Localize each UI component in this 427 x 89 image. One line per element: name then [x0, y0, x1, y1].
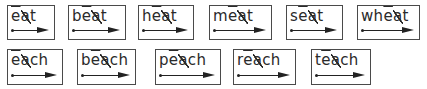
word-card-beach: beach	[77, 49, 136, 85]
word-card-wheat: wheat	[357, 5, 420, 40]
long-vowel: e	[243, 51, 253, 69]
reading-arrow-icon	[11, 27, 49, 34]
reading-arrow-icon	[361, 27, 414, 34]
silent-letter: a	[178, 50, 188, 70]
long-vowel: e	[298, 7, 308, 25]
silent-letter: a	[308, 6, 318, 26]
long-vowel: e	[82, 7, 92, 25]
reading-arrow-icon	[315, 72, 365, 79]
word-text: teach	[315, 50, 359, 70]
word-text: heat	[142, 6, 177, 26]
long-vowel: e	[11, 7, 21, 25]
long-vowel: e	[383, 7, 393, 25]
silent-letter: a	[21, 50, 31, 70]
reading-arrow-icon	[81, 72, 130, 79]
word-text: beach	[81, 50, 128, 70]
word-text: beat	[72, 6, 107, 26]
reading-arrow-icon	[72, 27, 120, 34]
reading-arrow-icon	[159, 72, 215, 79]
word-card-reach: reach	[233, 49, 296, 85]
silent-letter: a	[91, 6, 101, 26]
word-card-meat: meat	[209, 5, 272, 40]
word-text: peach	[159, 50, 206, 70]
word-text: eat	[11, 6, 36, 26]
word-text: reach	[237, 50, 281, 70]
reading-arrow-icon	[290, 27, 337, 34]
word-text: wheat	[361, 6, 409, 26]
word-text: each	[11, 50, 48, 70]
silent-letter: a	[21, 6, 31, 26]
long-vowel: e	[169, 51, 179, 69]
word-card-teach: teach	[311, 49, 371, 85]
reading-arrow-icon	[237, 72, 290, 79]
word-card-beat: beat	[68, 5, 126, 40]
word-card-each: each	[7, 49, 63, 85]
reading-arrow-icon	[213, 27, 266, 34]
reading-arrow-icon	[142, 27, 188, 34]
word-card-peach: peach	[155, 49, 221, 85]
silent-letter: a	[161, 6, 171, 26]
word-card-seat: seat	[286, 5, 343, 40]
long-vowel: e	[152, 7, 162, 25]
word-text: seat	[290, 6, 323, 26]
long-vowel: e	[91, 51, 101, 69]
word-card-heat: heat	[138, 5, 194, 40]
long-vowel: e	[321, 51, 331, 69]
silent-letter: a	[331, 50, 341, 70]
reading-arrow-icon	[11, 72, 57, 79]
silent-letter: a	[100, 50, 110, 70]
silent-letter: a	[393, 6, 403, 26]
long-vowel: e	[228, 7, 238, 25]
long-vowel: e	[11, 51, 21, 69]
word-text: meat	[213, 6, 253, 26]
word-card-eat: eat	[7, 5, 55, 40]
silent-letter: a	[237, 6, 247, 26]
silent-letter: a	[253, 50, 263, 70]
